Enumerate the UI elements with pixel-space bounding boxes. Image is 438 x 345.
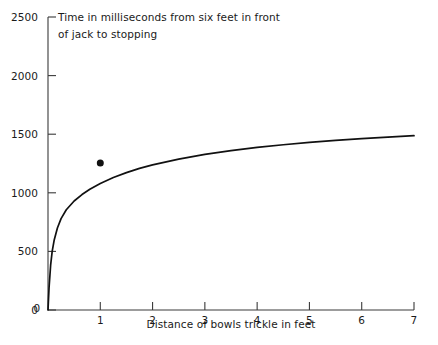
y-axis-tick-label: 500 xyxy=(0,245,38,257)
y-axis-tick-label: 0 xyxy=(0,304,38,316)
x-axis-tick-label: 1 xyxy=(97,314,104,326)
x-axis-tick-label: 0 xyxy=(34,302,41,314)
chart-title-line-2: of jack to stopping xyxy=(58,26,280,43)
x-axis-tick-label: 2 xyxy=(149,314,156,326)
x-axis-label: Distance of bowls trickle in feet xyxy=(147,318,316,330)
x-axis-tick-label: 6 xyxy=(358,314,365,326)
data-point-marker xyxy=(97,159,104,166)
plot-area xyxy=(0,0,438,345)
chart-figure: Time in milliseconds from six feet in fr… xyxy=(0,0,438,345)
y-axis-tick-label: 2000 xyxy=(0,70,38,82)
x-axis-tick-label: 3 xyxy=(201,314,208,326)
y-axis-tick-label: 1500 xyxy=(0,128,38,140)
x-axis-tick-label: 4 xyxy=(254,314,261,326)
x-axis-ticks xyxy=(100,302,414,310)
y-axis-ticks xyxy=(48,17,56,310)
x-axis-tick-label: 5 xyxy=(306,314,313,326)
chart-title-line-1: Time in milliseconds from six feet in fr… xyxy=(58,9,280,26)
data-points xyxy=(97,159,104,166)
y-axis-tick-label: 2500 xyxy=(0,11,38,23)
chart-title: Time in milliseconds from six feet in fr… xyxy=(58,9,280,43)
x-axis-tick-label: 7 xyxy=(411,314,418,326)
y-axis-tick-label: 1000 xyxy=(0,187,38,199)
